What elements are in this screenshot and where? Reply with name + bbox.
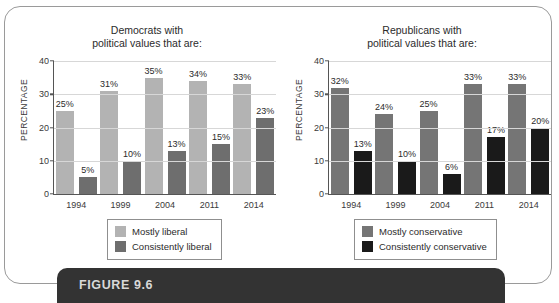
gridline bbox=[329, 61, 551, 62]
y-axis-title-republicans: PERCENTAGE bbox=[294, 50, 304, 170]
legend-republicans: Mostly conservativeConsistently conserva… bbox=[354, 219, 497, 260]
gridline bbox=[329, 94, 551, 95]
y-tick-label: 0 bbox=[319, 189, 324, 199]
legend-label: Mostly conservative bbox=[379, 226, 462, 237]
x-tick-label: 2011 bbox=[200, 200, 219, 210]
gridline bbox=[54, 161, 276, 162]
bar: 33% bbox=[233, 84, 251, 194]
y-tick-label: 40 bbox=[314, 56, 324, 66]
legend-item: Mostly liberal bbox=[115, 224, 212, 239]
legend-item: Mostly conservative bbox=[362, 224, 487, 239]
y-tick-label: 30 bbox=[39, 89, 49, 99]
x-tick-label: 2004 bbox=[155, 200, 175, 210]
bar: 10% bbox=[123, 161, 141, 194]
bar: 10% bbox=[398, 161, 416, 194]
bar: 15% bbox=[212, 144, 230, 194]
y-tick-label: 10 bbox=[39, 156, 49, 166]
legend-swatch bbox=[115, 241, 126, 252]
y-tick-label: 20 bbox=[39, 123, 49, 133]
y-tick-label: 0 bbox=[44, 189, 49, 199]
bar: 33% bbox=[508, 84, 526, 194]
y-tick-mark bbox=[325, 94, 329, 95]
y-tick-mark bbox=[325, 60, 329, 61]
y-tick-mark bbox=[50, 94, 54, 95]
y-tick-mark bbox=[50, 127, 54, 128]
y-tick-mark bbox=[325, 127, 329, 128]
chart-title-republicans: Republicans with political values that a… bbox=[286, 24, 558, 50]
y-tick-label: 40 bbox=[39, 56, 49, 66]
bar: 5% bbox=[79, 177, 97, 194]
bar-value-label: 13% bbox=[168, 139, 186, 149]
bar-value-label: 15% bbox=[212, 132, 230, 142]
x-tick-label: 1999 bbox=[386, 200, 406, 210]
y-axis-title-democrats: PERCENTAGE bbox=[19, 50, 29, 170]
legend-label: Consistently conservative bbox=[379, 241, 487, 252]
gridline bbox=[329, 161, 551, 162]
bar-value-label: 10% bbox=[398, 149, 416, 159]
x-tick-label: 1994 bbox=[66, 200, 86, 210]
gridline bbox=[329, 128, 551, 129]
y-tick-label: 10 bbox=[314, 156, 324, 166]
bar: 25% bbox=[56, 111, 74, 194]
bar: 31% bbox=[100, 91, 118, 194]
x-tick-label: 2004 bbox=[430, 200, 450, 210]
legend-label: Consistently liberal bbox=[132, 241, 212, 252]
y-tick-label: 20 bbox=[314, 123, 324, 133]
bar: 24% bbox=[375, 114, 393, 194]
bar-value-label: 6% bbox=[445, 162, 458, 172]
bar-value-label: 20% bbox=[531, 116, 549, 126]
bar-value-label: 5% bbox=[81, 165, 94, 175]
legend-item: Consistently conservative bbox=[362, 239, 487, 254]
figure-caption-label: FIGURE 9.6 bbox=[79, 278, 153, 292]
y-tick-mark bbox=[325, 160, 329, 161]
bar: 25% bbox=[420, 111, 438, 194]
x-tick-label: 2014 bbox=[244, 200, 264, 210]
x-tick-label: 1994 bbox=[341, 200, 361, 210]
y-tick-mark bbox=[50, 60, 54, 61]
bar-value-label: 34% bbox=[189, 69, 207, 79]
bar: 13% bbox=[354, 151, 372, 194]
gridline bbox=[54, 94, 276, 95]
figure-caption-bar: FIGURE 9.6 bbox=[57, 268, 505, 303]
legend-item: Consistently liberal bbox=[115, 239, 212, 254]
bar-value-label: 25% bbox=[56, 99, 74, 109]
gridline bbox=[54, 128, 276, 129]
chart-democrats: Democrats with political values that are… bbox=[11, 19, 283, 271]
bar-value-label: 13% bbox=[354, 139, 372, 149]
y-tick-label: 30 bbox=[314, 89, 324, 99]
bar: 13% bbox=[168, 151, 186, 194]
bar-value-label: 10% bbox=[123, 149, 141, 159]
bar-value-label: 23% bbox=[256, 106, 274, 116]
bar: 23% bbox=[256, 118, 274, 194]
legend-swatch bbox=[362, 241, 373, 252]
bar-value-label: 31% bbox=[100, 79, 118, 89]
chart-title-democrats: Democrats with political values that are… bbox=[11, 24, 283, 50]
bar-value-label: 33% bbox=[508, 72, 526, 82]
plot-wrap-democrats: PERCENTAGE 25%5%199431%10%199935%13%2004… bbox=[11, 55, 283, 207]
figure-panel: Democrats with political values that are… bbox=[4, 6, 552, 284]
y-tick-mark bbox=[50, 160, 54, 161]
x-tick-label: 2011 bbox=[475, 200, 494, 210]
bar-value-label: 33% bbox=[233, 72, 251, 82]
bar-value-label: 32% bbox=[331, 76, 349, 86]
legend-democrats: Mostly liberalConsistently liberal bbox=[107, 219, 222, 260]
bar-value-label: 35% bbox=[145, 66, 163, 76]
chart-republicans: Republicans with political values that a… bbox=[286, 19, 558, 271]
y-tick-mark bbox=[325, 193, 329, 194]
bar: 32% bbox=[331, 88, 349, 194]
legend-swatch bbox=[115, 226, 126, 237]
bar: 17% bbox=[487, 137, 505, 194]
x-tick-label: 2014 bbox=[519, 200, 539, 210]
bar-value-label: 25% bbox=[420, 99, 438, 109]
bar-value-label: 24% bbox=[375, 102, 393, 112]
gridline bbox=[54, 61, 276, 62]
plot-area-democrats: 25%5%199431%10%199935%13%200434%15%20113… bbox=[53, 61, 276, 195]
legend-label: Mostly liberal bbox=[132, 226, 187, 237]
plot-wrap-republicans: PERCENTAGE 32%13%199424%10%199925%6%2004… bbox=[286, 55, 558, 207]
plot-area-republicans: 32%13%199424%10%199925%6%200433%17%20113… bbox=[328, 61, 551, 195]
bar: 33% bbox=[464, 84, 482, 194]
y-tick-mark bbox=[50, 193, 54, 194]
legend-swatch bbox=[362, 226, 373, 237]
bar-value-label: 33% bbox=[464, 72, 482, 82]
x-tick-label: 1999 bbox=[111, 200, 131, 210]
